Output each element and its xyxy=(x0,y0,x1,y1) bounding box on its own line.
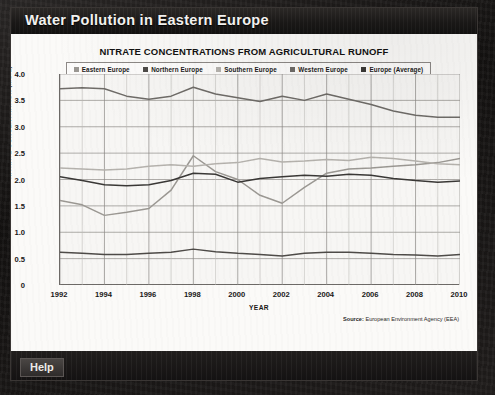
application-window: Water Pollution in Eastern Europe NITRAT… xyxy=(11,8,477,380)
chart-panel: NITRATE CONCENTRATIONS FROM AGRICULTURAL… xyxy=(11,34,477,351)
x-axis-tick-label: 2008 xyxy=(406,290,423,299)
y-axis-tick-label: 3.5 xyxy=(14,96,25,105)
bottom-toolbar: Help xyxy=(11,351,477,380)
y-axis-tick-label: 2.5 xyxy=(14,149,25,158)
x-axis-tick-label: 2006 xyxy=(362,290,379,299)
bottom-bar-texture xyxy=(11,351,477,380)
y-axis-tick-label: 1.0 xyxy=(14,228,25,237)
y-axis-tick-label: 0 xyxy=(21,281,25,290)
x-axis-title: YEAR xyxy=(59,304,459,311)
plot-area xyxy=(59,74,459,285)
plot-wrapper: NITRATE CONCENTRATION (MG/L) YEAR Source… xyxy=(11,34,477,351)
chart-source-note: Source: European Environment Agency (EEA… xyxy=(343,316,459,322)
x-axis-tick-label: 1992 xyxy=(51,290,68,299)
x-axis-tick-label: 1998 xyxy=(184,290,201,299)
x-axis-tick-label: 1994 xyxy=(95,290,112,299)
y-axis-tick-label: 2.0 xyxy=(14,175,25,184)
help-button[interactable]: Help xyxy=(20,358,64,377)
y-axis-tick-label: 0.5 xyxy=(14,254,25,263)
x-axis-tick-label: 2002 xyxy=(273,290,290,299)
page-title: Water Pollution in Eastern Europe xyxy=(25,12,269,28)
x-axis-tick-label: 2010 xyxy=(451,290,468,299)
y-axis-tick-label: 4.0 xyxy=(14,70,25,79)
y-axis-title: NITRATE CONCENTRATION (MG/L) xyxy=(11,66,12,179)
y-axis-tick-label: 1.5 xyxy=(14,201,25,210)
source-label: Source: xyxy=(343,316,365,322)
source-value: European Environment Agency (EEA) xyxy=(365,316,459,322)
chart-lines-svg xyxy=(60,74,460,285)
window-title-bar: Water Pollution in Eastern Europe xyxy=(11,8,477,34)
x-axis-tick-label: 2000 xyxy=(228,290,245,299)
x-axis-tick-label: 2004 xyxy=(317,290,334,299)
x-axis-tick-label: 1996 xyxy=(139,290,156,299)
y-axis-tick-label: 3.0 xyxy=(14,122,25,131)
